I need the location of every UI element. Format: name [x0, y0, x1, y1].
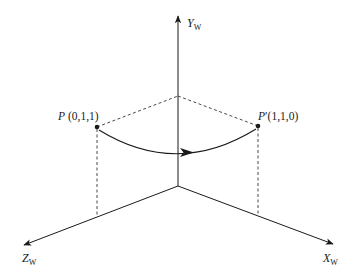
diagram-canvas: P(0,1,1) P′(1,1,0) YW ZW XW	[0, 0, 354, 275]
point-p-prime-coords: (1,1,0)	[268, 110, 299, 123]
z-axis-label: ZW	[22, 251, 37, 267]
point-p-name: P	[57, 110, 65, 122]
point-p	[95, 125, 100, 130]
point-p-prime	[256, 124, 261, 129]
point-p-coords: (0,1,1)	[68, 110, 99, 123]
x-axis-label: XW	[322, 251, 338, 267]
z-axis	[24, 186, 178, 245]
point-p-prime-name: P	[257, 110, 265, 122]
dashed-p-to-yaxis	[97, 96, 178, 127]
x-axis	[178, 186, 333, 244]
x-axis-subscript: W	[330, 258, 338, 267]
point-p-label: P(0,1,1)	[57, 110, 99, 123]
y-axis-label: YW	[187, 16, 202, 32]
point-p-prime-label: P′(1,1,0)	[257, 110, 298, 123]
rotation-arrowhead-icon	[180, 148, 194, 157]
y-axis-subscript: W	[194, 23, 202, 32]
z-axis-subscript: W	[29, 258, 37, 267]
dashed-pprime-to-yaxis	[178, 96, 258, 126]
